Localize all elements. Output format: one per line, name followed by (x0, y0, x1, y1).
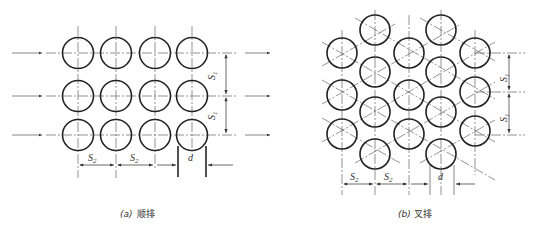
caption-b-text: 叉排 (414, 208, 432, 219)
tubes-a (63, 38, 208, 151)
s2-label-b-left: S2 (350, 171, 359, 184)
flow-arrows-left-a (12, 53, 42, 135)
panel-a-inline: S1 S1 S2 S2 d (a) 顺排 (12, 26, 270, 219)
s1-label-a-bottom: S1 (206, 112, 219, 121)
s2-label-a-left: S2 (88, 152, 97, 165)
diagonal-centerlines (322, 18, 495, 180)
caption-a-label: (a) (120, 209, 133, 219)
panel-b-staggered: S1 S1 S2 S2 d (b) 叉排 (322, 10, 525, 219)
s1-dimension-a: S1 S1 (206, 55, 226, 133)
tube-bank-diagram: S1 S1 S2 S2 d (a) 顺排 (0, 0, 535, 231)
s1-dimension-b: S1 S1 (498, 55, 511, 133)
d-label-a: d (188, 152, 194, 163)
caption-b-label: (b) (398, 209, 411, 219)
flow-arrows-right-a (245, 53, 270, 135)
s1-label-a-top: S1 (206, 72, 219, 81)
s2-d-dimension-b: S2 S2 d (344, 171, 475, 184)
caption-a-text: 顺排 (137, 208, 155, 219)
d-label-b: d (438, 171, 444, 182)
s2-label-a-mid: S2 (130, 152, 139, 165)
s2-label-b-mid: S2 (384, 171, 393, 184)
